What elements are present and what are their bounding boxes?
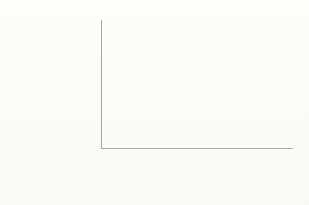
bar-chart-figure — [0, 0, 309, 205]
bar-series — [101, 20, 293, 148]
x-axis-line — [101, 148, 293, 149]
